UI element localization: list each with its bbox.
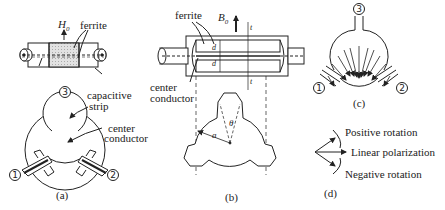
panel-b-conductor-shape — [184, 93, 276, 166]
panel-d-positive-label: Positive rotation — [345, 127, 417, 138]
panel-a-port-2: 2 — [107, 169, 119, 181]
panel-d-linear-label: Linear polarization — [351, 147, 435, 158]
panel-b-ferrite-label: ferrite — [175, 10, 202, 21]
panel-d-negative-label: Negative rotation — [345, 169, 422, 180]
panel-b-dim-t-top: t — [250, 24, 252, 32]
panel-c-port-1: 1 — [313, 82, 325, 94]
panel-b-caption: (b) — [225, 192, 238, 203]
panel-b-dim-d-bottom: d — [212, 60, 216, 68]
panel-c-port-3: 3 — [353, 3, 365, 15]
panel-b-radius-label: a — [212, 131, 217, 140]
ferrite-upper — [196, 40, 280, 52]
panel-a-capacitive-label-2: strip — [89, 101, 109, 112]
panel-b-center-label-2: conductor — [150, 93, 194, 104]
ferrite-lower — [196, 60, 280, 72]
panel-b-dim-t-bottom: t — [250, 78, 252, 86]
panel-a-ferrite-label: ferrite — [80, 20, 107, 31]
panel-a-caption: (a) — [56, 190, 68, 201]
panel-c-caption: (c) — [353, 98, 365, 109]
panel-d-polarization — [315, 130, 346, 174]
panel-a-port-1: 1 — [9, 169, 21, 181]
panel-d-caption: (d) — [324, 188, 337, 199]
panel-a-port-3: 3 — [59, 86, 71, 98]
panel-b-dim-d-top: d — [212, 44, 216, 52]
panel-b-field-label: B0 — [218, 12, 228, 26]
panel-b-angle-label: θ — [229, 119, 233, 128]
panel-a-field-label: H0 — [58, 19, 69, 33]
panel-a-center-label-2: conductor — [104, 133, 148, 144]
panel-c-port-2: 2 — [396, 82, 408, 94]
panel-c-field-pattern — [320, 16, 398, 86]
panel-a-side-view — [20, 30, 106, 74]
